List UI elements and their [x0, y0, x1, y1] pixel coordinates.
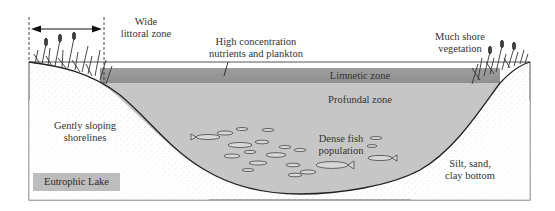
shorelines-line-2: shorelines: [45, 132, 125, 144]
limnetic-zone: [100, 68, 500, 83]
fish-population-label: Dense fish population: [308, 133, 374, 157]
shorelines-label: Gently sloping shorelines: [45, 120, 125, 144]
fish-line-1: Dense fish: [308, 133, 374, 145]
nutrients-plankton-label: High concentration nutrients and plankto…: [196, 36, 316, 60]
bottom-line-1: Silt, sand,: [425, 158, 515, 170]
littoral-width-arrow-icon: [31, 26, 102, 33]
littoral-zone-label: Wide littoral zone: [111, 16, 181, 40]
shore-vegetation-label: Much shore vegetation: [420, 31, 500, 55]
nutrients-line-2: nutrients and plankton: [196, 48, 316, 60]
shore-vegetation-line-2: vegetation: [420, 43, 500, 55]
diagram-title-box: Eutrophic Lake: [33, 173, 120, 191]
profundal-zone-label: Profundal zone: [320, 94, 400, 106]
bottom-sediment-label: Silt, sand, clay bottom: [425, 158, 515, 182]
nutrients-line-1: High concentration: [196, 36, 316, 48]
littoral-line-1: Wide: [111, 16, 181, 28]
shorelines-line-1: Gently sloping: [45, 120, 125, 132]
eutrophic-lake-diagram: Wide littoral zone High concentration nu…: [0, 0, 555, 211]
littoral-line-2: littoral zone: [111, 28, 181, 40]
bottom-line-2: clay bottom: [425, 170, 515, 182]
fish-line-2: population: [308, 145, 374, 157]
limnetic-zone-label: Limnetic zone: [325, 70, 395, 82]
shore-vegetation-line-1: Much shore: [420, 31, 500, 43]
